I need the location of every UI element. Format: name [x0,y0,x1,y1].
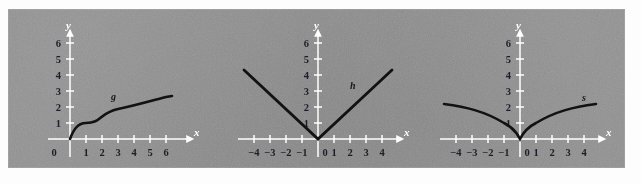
graph-g-xtick-1: 1 [83,147,88,158]
graph-g-function-label: g [110,91,116,102]
graph-g-ytick-5: 5 [56,54,61,65]
graph-h-ytick-4: 4 [304,70,310,81]
graph-s-xtick-neg1: −1 [498,147,509,158]
graph-s-ytick-4: 4 [506,70,512,81]
graph-s-function-label: s [581,92,586,103]
graph-g-ytick-1: 1 [56,118,61,129]
graph-h-xtick-4: 4 [379,147,385,158]
graph-h-ylabel: y [312,19,319,31]
graph-h-xtick-neg2: −2 [280,147,291,158]
graph-s-xtick-neg3: −3 [466,147,477,158]
graph-s-xtick-neg4: −4 [450,147,462,158]
graph-h-canvas: x y −4 −3 −2 −1 1 2 3 4 1 2 3 4 5 [218,9,418,168]
graph-g-origin-label: 0 [51,147,56,158]
graph-s-ylabel: y [514,19,521,31]
graph-s-ytick-3: 3 [506,86,511,97]
graph-g-ytick-4: 4 [56,70,62,81]
graph-s-ytick-labels: 1 2 3 4 5 6 [506,38,512,129]
graph-g-xtick-2: 2 [99,147,104,158]
graph-g-xlabel: x [193,126,200,138]
graph-s-ytick-5: 5 [506,54,511,65]
graph-g-canvas: x y 1 2 3 4 5 6 1 2 3 4 5 6 [22,9,212,168]
graph-h-xtick-1: 1 [331,147,336,158]
graph-g: x y 1 2 3 4 5 6 1 2 3 4 5 6 [22,9,212,168]
graph-h-xtick-3: 3 [363,147,368,158]
graph-s-ytick-2: 2 [506,102,511,113]
graph-h-xtick-2: 2 [347,147,352,158]
graph-h-ytick-6: 6 [304,38,309,49]
graph-g-ytick-3: 3 [56,86,61,97]
graph-h-ytick-3: 3 [304,86,309,97]
graph-g-xtick-4: 4 [131,147,137,158]
figure-panel: x y 1 2 3 4 5 6 1 2 3 4 5 6 [8,9,625,168]
graph-s: x y −4 −3 −2 −1 1 2 3 4 1 2 3 4 5 [422,9,622,168]
graph-s-xtick-3: 3 [565,147,570,158]
graph-h-ytick-5: 5 [304,54,309,65]
graph-s-xlabel: x [605,126,612,138]
graph-s-ytick-6: 6 [506,38,511,49]
graph-g-ytick-labels: 1 2 3 4 5 6 [56,38,62,129]
graph-g-ylabel: y [64,19,71,31]
graph-g-xtick-5: 5 [147,147,152,158]
graph-s-origin-label: 0 [524,147,529,158]
graph-h-ytick-2: 2 [304,102,309,113]
graph-s-xtick-4: 4 [581,147,587,158]
graph-s-xtick-neg2: −2 [482,147,493,158]
graph-h-xtick-labels: −4 −3 −2 −1 1 2 3 4 [248,147,385,158]
graph-h-ytick-labels: 1 2 3 4 5 6 [304,38,310,129]
graph-s-xtick-labels: −4 −3 −2 −1 1 2 3 4 [450,147,587,158]
graph-g-xtick-3: 3 [115,147,120,158]
graph-h-xtick-neg4: −4 [248,147,260,158]
graph-h: x y −4 −3 −2 −1 1 2 3 4 1 2 3 4 5 [218,9,418,168]
graph-g-curve [70,96,172,139]
graph-s-canvas: x y −4 −3 −2 −1 1 2 3 4 1 2 3 4 5 [422,9,622,168]
graph-g-xtick-6: 6 [163,147,168,158]
graph-g-xtick-labels: 1 2 3 4 5 6 [83,147,168,158]
graph-g-ytick-2: 2 [56,102,61,113]
graph-s-xtick-2: 2 [549,147,554,158]
graph-h-function-label: h [350,80,356,91]
figure-page: x y 1 2 3 4 5 6 1 2 3 4 5 6 [0,0,641,184]
graph-g-ytick-6: 6 [56,38,61,49]
graph-h-origin-label: 0 [322,147,327,158]
graph-h-xtick-neg1: −1 [296,147,307,158]
graph-h-xlabel: x [403,126,410,138]
graph-h-xtick-neg3: −3 [264,147,275,158]
graph-s-xtick-1: 1 [533,147,538,158]
